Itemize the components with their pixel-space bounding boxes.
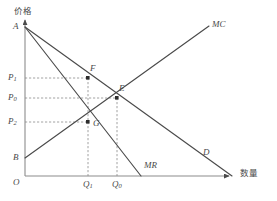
economics-diagram: 价格 数量 O P1 P0 P2 Q1 Q0 A B F E G D MR MC — [0, 0, 277, 201]
point-label-G: G — [93, 119, 100, 128]
y-axis-label: 价格 — [14, 7, 32, 16]
y-tick-P1: P1 — [8, 73, 17, 83]
x-tick-Q1-sub: 1 — [90, 182, 93, 189]
y-tick-P0: P0 — [8, 93, 17, 103]
y-tick-P2-sub: 2 — [14, 119, 17, 126]
point-label-E: E — [119, 84, 125, 93]
point-marker-G — [86, 120, 90, 124]
curves-group — [25, 26, 232, 176]
point-marker-E — [115, 96, 119, 100]
axis-group — [25, 20, 229, 176]
x-tick-Q0: Q0 — [112, 180, 122, 190]
marginal-revenue-curve — [25, 27, 141, 176]
point-label-F: F — [90, 64, 96, 73]
curve-label-D: D — [203, 148, 210, 157]
y-tick-P1-sub: 1 — [14, 75, 17, 82]
origin-label: O — [13, 178, 20, 187]
y-tick-P0-sub: 0 — [14, 95, 17, 102]
x-tick-Q0-sub: 0 — [119, 182, 122, 189]
demand-curve — [25, 27, 232, 176]
point-label-B: B — [13, 153, 19, 162]
x-axis-label: 数量 — [240, 169, 258, 178]
point-marker-F — [86, 76, 90, 80]
x-tick-Q1: Q1 — [83, 180, 93, 190]
curve-label-MC: MC — [212, 20, 226, 29]
point-label-A: A — [13, 22, 19, 31]
curve-label-MR: MR — [144, 161, 157, 170]
y-tick-P2: P2 — [8, 117, 17, 127]
diagram-canvas — [0, 0, 277, 201]
